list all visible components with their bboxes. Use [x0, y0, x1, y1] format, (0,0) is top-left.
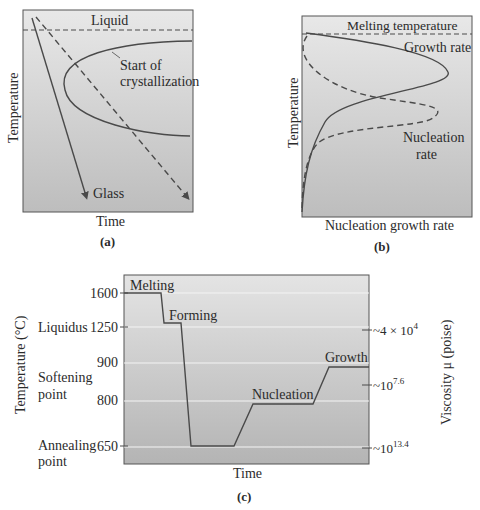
panel-b-xlabel: Nucleation growth rate — [325, 218, 454, 233]
ytick-650: 650 — [97, 439, 118, 454]
viscosity-tick-3: ~1013.4 — [373, 439, 409, 456]
viscosity-tick-1: ~4 × 104 — [373, 321, 418, 338]
panel-c-caption: (c) — [237, 489, 251, 504]
ytick-1600: 1600 — [90, 286, 118, 301]
panel-c: Melting Forming Nucleation Growth 1600 1… — [13, 275, 455, 504]
panel-c-ylabel: Temperature (°C) — [13, 315, 29, 414]
ytick-1250: 1250 — [90, 320, 118, 335]
annealing-label-2: point — [38, 454, 67, 469]
panel-c-xlabel: Time — [233, 466, 262, 481]
stage-nucleation-label: Nucleation — [252, 387, 313, 402]
panel-c-plot-area — [124, 275, 369, 464]
softening-label-2: point — [38, 387, 67, 402]
stage-forming-label: Forming — [169, 308, 217, 323]
stage-melting-label: Melting — [130, 278, 174, 293]
panel-b-caption: (b) — [374, 239, 390, 254]
viscosity-tick-2: ~107.6 — [373, 376, 405, 393]
panel-a-plot-area — [23, 10, 193, 212]
panel-c-y2label: Viscosity μ (poise) — [439, 319, 455, 425]
figure: Liquid Start of crystallization Glass Te… — [0, 0, 480, 510]
glass-label: Glass — [93, 186, 124, 201]
liquidus-label: Liquidus — [38, 320, 88, 335]
panel-b: Melting temperature Growth rate Nucleati… — [286, 16, 472, 254]
panel-a-caption: (a) — [100, 234, 115, 249]
melting-label: Melting temperature — [347, 18, 458, 33]
panel-a: Liquid Start of crystallization Glass Te… — [6, 10, 199, 249]
curve-label-line1: Start of — [120, 58, 162, 73]
nucleation-label-line2: rate — [416, 147, 437, 162]
annealing-label-1: Annealing — [38, 438, 96, 453]
panel-b-ylabel: Temperature — [286, 77, 301, 148]
softening-label-1: Softening — [38, 370, 92, 385]
nucleation-label-line1: Nucleation — [403, 130, 464, 145]
curve-label-line2: crystallization — [120, 74, 199, 89]
stage-growth-label: Growth — [325, 350, 368, 365]
panel-a-ylabel: Temperature — [6, 72, 21, 143]
ytick-900: 900 — [97, 355, 118, 370]
panel-a-xlabel: Time — [96, 214, 125, 229]
liquid-label: Liquid — [91, 13, 128, 28]
ytick-800: 800 — [97, 393, 118, 408]
growth-rate-label: Growth rate — [404, 40, 471, 55]
